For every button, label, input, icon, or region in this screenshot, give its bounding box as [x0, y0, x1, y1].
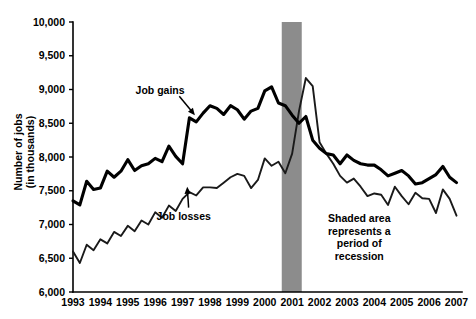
x-tick-label: 2001 — [280, 296, 304, 308]
y-tick-label: 7,500 — [39, 184, 65, 196]
job-gains-annotation: Job gains — [136, 84, 195, 115]
x-tick-label: 1995 — [116, 296, 140, 308]
x-tick-label: 2004 — [363, 296, 387, 308]
recession-note-line: period of — [337, 237, 382, 249]
job-losses-arrow-line — [188, 192, 189, 208]
y-tick-label: 9,500 — [39, 49, 65, 61]
jobs-line-chart: 6,0006,5007,0007,5008,0008,5009,0009,500… — [0, 0, 476, 319]
recession-note-line: Shaded area — [328, 212, 391, 224]
y-axis-title-line-1: Number of jobs — [12, 113, 24, 190]
x-tick-label: 2002 — [308, 296, 332, 308]
x-tick-label: 2006 — [417, 296, 441, 308]
x-tick-label: 1996 — [144, 296, 168, 308]
job-losses-arrow-head — [185, 187, 191, 194]
job-losses-annotation: Job losses — [157, 187, 211, 222]
y-axis-ticks: 6,0006,5007,0007,5008,0008,5009,0009,500… — [33, 16, 73, 298]
x-tick-label: 1994 — [89, 296, 113, 308]
y-axis-title: Number of jobs (in thousands) — [12, 113, 36, 190]
job-gains-line — [73, 87, 457, 205]
recession-note: Shaded arearepresents aperiod ofrecessio… — [328, 212, 391, 262]
y-tick-label: 7,000 — [39, 218, 65, 230]
x-tick-label: 1998 — [198, 296, 222, 308]
y-tick-label: 8,500 — [39, 117, 65, 129]
x-tick-label: 2005 — [390, 296, 414, 308]
job-losses-annotation-label: Job losses — [157, 210, 211, 222]
chart-container: 6,0006,5007,0007,5008,0008,5009,0009,500… — [0, 0, 476, 319]
x-tick-label: 1993 — [61, 296, 85, 308]
y-tick-label: 6,500 — [39, 252, 65, 264]
y-axis-title-line-2: (in thousands) — [24, 116, 36, 188]
x-tick-label: 2000 — [253, 296, 277, 308]
x-axis-ticks: 1993199419951996199719981999200020012002… — [61, 296, 468, 308]
x-axis: 1993199419951996199719981999200020012002… — [61, 292, 468, 308]
x-tick-label: 2003 — [335, 296, 359, 308]
y-axis: 6,0006,5007,0007,5008,0008,5009,0009,500… — [33, 16, 73, 298]
x-tick-label: 1997 — [171, 296, 195, 308]
y-tick-label: 9,000 — [39, 83, 65, 95]
x-tick-label: 1999 — [226, 296, 250, 308]
x-tick-label: 2007 — [445, 296, 469, 308]
recession-note-line: represents a — [328, 225, 391, 237]
y-tick-label: 8,000 — [39, 151, 65, 163]
y-tick-label: 10,000 — [33, 16, 65, 28]
job-gains-arrow-line — [179, 96, 191, 111]
recession-note-line: recession — [335, 250, 384, 262]
job-gains-annotation-label: Job gains — [136, 84, 185, 96]
